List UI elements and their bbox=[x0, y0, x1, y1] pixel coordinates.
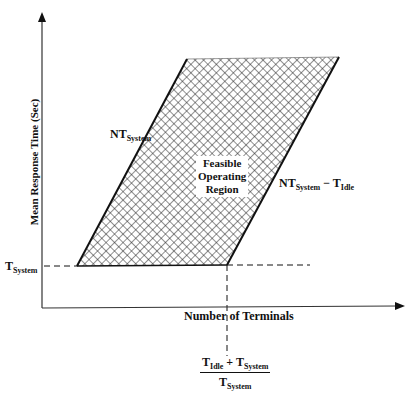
label-nt-main: NT bbox=[279, 176, 296, 190]
label-minus-op: − bbox=[320, 176, 333, 190]
feasible-region-label: Feasible Operating Region bbox=[196, 156, 248, 197]
label-t-main: T bbox=[333, 176, 341, 190]
num-t2: T bbox=[236, 355, 244, 369]
nt-system-main: NT bbox=[110, 127, 127, 141]
x-marker-fraction: TIdle + TSystem TSystem bbox=[200, 355, 270, 390]
num-t1: T bbox=[202, 355, 210, 369]
region-label-line-2: Operating bbox=[198, 170, 246, 183]
t-system-sub: System bbox=[13, 266, 37, 275]
den-t: T bbox=[219, 375, 227, 389]
label-nt-sub: System bbox=[296, 183, 320, 192]
region-bottom-edge bbox=[77, 265, 227, 266]
num-s1: Idle bbox=[210, 362, 223, 371]
fraction-denominator: TSystem bbox=[200, 373, 270, 390]
region-label-line-3: Region bbox=[198, 183, 246, 196]
num-plus-op: + bbox=[223, 355, 236, 369]
den-s: System bbox=[227, 382, 251, 391]
label-t-sub: Idle bbox=[341, 183, 354, 192]
num-s2: System bbox=[244, 362, 268, 371]
t-system-marker-label: TSystem bbox=[5, 260, 37, 272]
nt-system-minus-tidle-label: NTSystem − TIdle bbox=[279, 177, 354, 189]
x-axis bbox=[42, 306, 396, 308]
nt-system-sub: System bbox=[127, 134, 151, 143]
y-axis-arrowhead bbox=[38, 12, 46, 22]
nt-system-label: NTSystem bbox=[110, 128, 151, 140]
region-label-line-1: Feasible bbox=[198, 157, 246, 170]
diagram-canvas bbox=[0, 0, 414, 398]
x-axis-arrowhead bbox=[395, 302, 405, 310]
fraction-numerator: TIdle + TSystem bbox=[200, 355, 270, 373]
t-system-main: T bbox=[5, 259, 13, 273]
y-axis-label: Mean Response Time (Sec) bbox=[28, 94, 40, 230]
x-axis-label: Number of Terminals bbox=[184, 310, 294, 322]
